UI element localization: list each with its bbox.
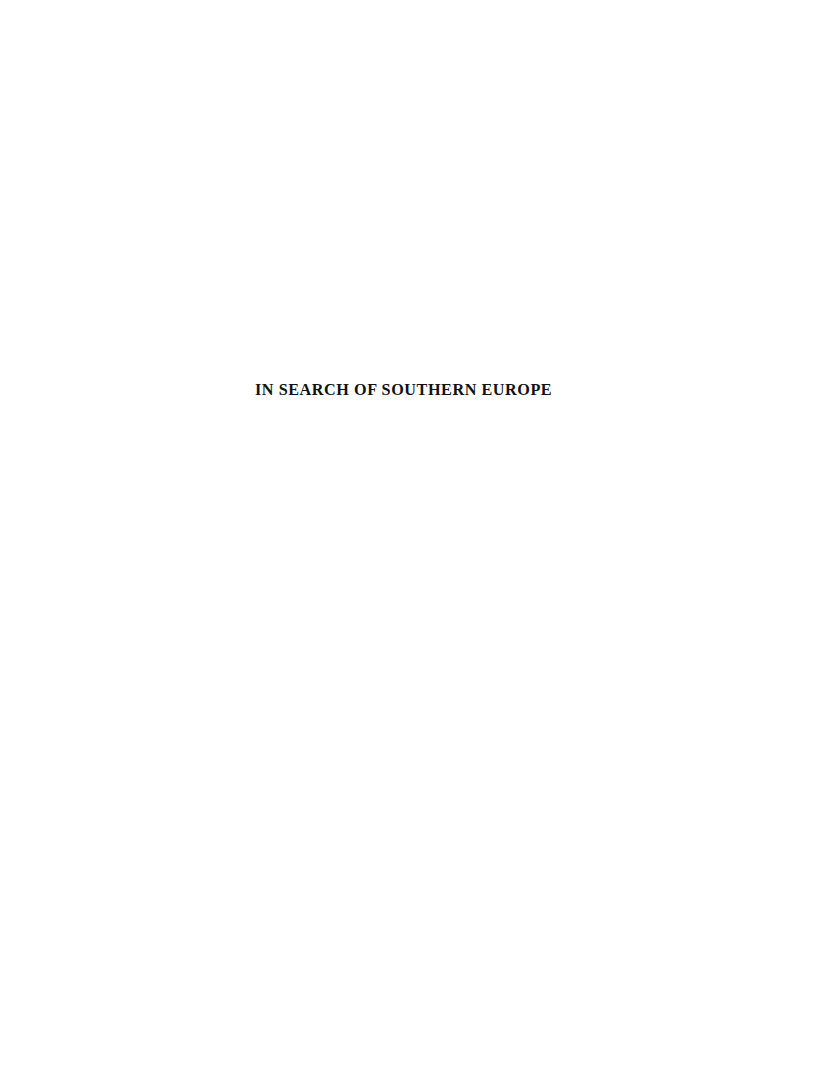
document-page: IN SEARCH OF SOUTHERN EUROPE: [0, 0, 819, 1083]
half-title: IN SEARCH OF SOUTHERN EUROPE: [255, 380, 565, 400]
